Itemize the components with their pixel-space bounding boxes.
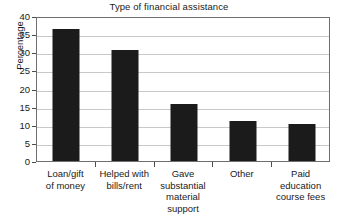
y-tick-label: 5 [25, 138, 30, 149]
x-axis-category-label-line: of money [36, 180, 95, 192]
y-axis-ticks: 0510152025303540 [0, 17, 36, 162]
x-axis-category-label-line: course fees [271, 191, 330, 203]
chart-figure: Type of financial assistance Percentage … [0, 0, 338, 221]
y-tick: 30 [0, 53, 36, 54]
chart-title: Type of financial assistance [0, 1, 338, 12]
plot-area [36, 17, 330, 162]
x-tick [271, 162, 272, 167]
x-axis-category-label: Paideducationcourse fees [271, 168, 330, 203]
y-tick-label: 25 [19, 65, 30, 76]
x-tick [95, 162, 96, 167]
bar[interactable] [288, 124, 315, 161]
x-axis-category-label: Loan/giftof money [36, 168, 95, 191]
y-tick-label: 20 [19, 84, 30, 95]
x-axis-labels: Loan/giftof moneyHelped withbills/rentGa… [36, 168, 330, 220]
y-tick: 40 [0, 17, 36, 18]
x-axis-category-label-line: material [154, 191, 213, 203]
y-tick-label: 35 [19, 29, 30, 40]
x-axis-category-label-line: bills/rent [95, 180, 154, 192]
bar[interactable] [53, 29, 80, 161]
bar-slot [155, 18, 214, 161]
y-tick-label: 0 [25, 156, 30, 167]
y-tick: 0 [0, 162, 36, 163]
bar-series [37, 18, 329, 161]
bar-slot [37, 18, 96, 161]
x-axis-category-label-line: support [154, 203, 213, 215]
x-axis-category-label-line: substantial [154, 180, 213, 192]
bar[interactable] [229, 121, 256, 161]
y-tick-label: 40 [19, 11, 30, 22]
y-tick: 15 [0, 108, 36, 109]
y-tick-label: 15 [19, 102, 30, 113]
bar-slot [96, 18, 155, 161]
x-axis-category-label: Other [212, 168, 271, 180]
bar-slot [272, 18, 331, 161]
y-tick: 20 [0, 90, 36, 91]
y-tick: 10 [0, 126, 36, 127]
bar-slot [213, 18, 272, 161]
bar[interactable] [170, 104, 197, 161]
x-tick [212, 162, 213, 167]
x-axis-category-label: Helped withbills/rent [95, 168, 154, 191]
y-tick: 25 [0, 71, 36, 72]
x-axis-category-label: Gavesubstantialmaterialsupport [154, 168, 213, 214]
x-axis-category-label-line: Helped with [95, 168, 154, 180]
y-tick: 35 [0, 35, 36, 36]
x-tick [154, 162, 155, 167]
x-axis-category-label-line: Other [212, 168, 271, 180]
x-axis-category-label-line: education [271, 180, 330, 192]
x-axis-category-label-line: Loan/gift [36, 168, 95, 180]
y-tick: 5 [0, 144, 36, 145]
x-axis-category-label-line: Paid [271, 168, 330, 180]
x-axis-category-label-line: Gave [154, 168, 213, 180]
y-tick-label: 10 [19, 120, 30, 131]
y-tick-label: 30 [19, 47, 30, 58]
bar[interactable] [112, 50, 139, 161]
